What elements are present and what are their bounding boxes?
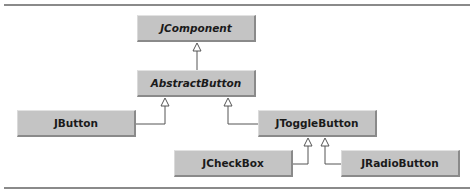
class-box-jbutton: JButton (17, 110, 136, 137)
connector-jcheckbox-jtogglebutton (293, 146, 308, 164)
generalization-arrow-icon (321, 138, 329, 146)
class-box-jcheckbox: JCheckBox (174, 150, 293, 177)
class-label: JToggleButton (276, 117, 359, 129)
generalization-arrow-icon (193, 43, 201, 51)
class-label: JButton (54, 117, 98, 129)
generalization-arrow-icon (224, 98, 232, 106)
class-box-jtogglebutton: JToggleButton (258, 110, 377, 137)
class-box-abstractbutton: AbstractButton (137, 70, 256, 97)
class-label: JRadioButton (361, 157, 439, 169)
connector-jradiobutton-jtogglebutton (325, 146, 341, 164)
class-label: JCheckBox (202, 157, 263, 169)
connector-jbutton-abstractbutton (136, 106, 165, 124)
connector-jtogglebutton-abstractbutton (228, 106, 258, 124)
class-label: JComponent (160, 22, 232, 34)
class-label: AbstractButton (151, 77, 242, 89)
class-box-jcomponent: JComponent (137, 15, 256, 42)
generalization-arrow-icon (161, 98, 169, 106)
generalization-arrow-icon (304, 138, 312, 146)
class-box-jradiobutton: JRadioButton (341, 150, 460, 177)
